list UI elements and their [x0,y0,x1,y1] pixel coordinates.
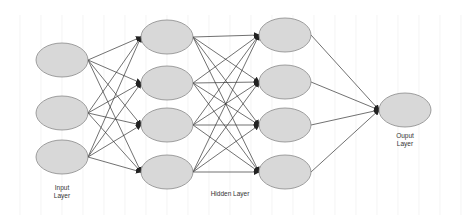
hidden1-node-2 [141,66,193,100]
edge-input-2-to-hidden1-0 [88,37,141,157]
input-node-1 [36,43,88,77]
connections [88,35,379,172]
input-node-2 [36,96,88,130]
edge-hidden1-0-to-hidden2-0 [193,35,259,37]
edge-input-2-to-hidden1-2 [88,125,141,157]
output-layer-label: OuputLayer [396,132,414,148]
hidden1-node-4 [141,155,193,189]
edge-input-2-to-hidden1-1 [88,83,141,157]
layer-labels: InputLayerOuputLayerHidden Layer [54,132,414,200]
hidden1-node-3 [141,108,193,142]
hidden1-node-1 [141,20,193,54]
hidden2-node-4 [259,155,311,189]
hidden-layer-label: Hidden Layer [211,190,250,198]
neural-network-diagram: InputLayerOuputLayerHidden Layer [0,0,465,224]
edge-input-2-to-hidden1-3 [88,157,141,172]
edge-input-1-to-hidden1-1 [88,83,141,113]
edge-hidden2-3-to-output-0 [311,110,379,172]
edge-hidden1-0-to-hidden2-1 [193,37,259,82]
edge-hidden1-1-to-hidden2-1 [193,82,259,83]
edge-hidden2-1-to-output-0 [311,82,379,110]
edge-input-0-to-hidden1-1 [88,60,141,83]
edge-input-1-to-hidden1-3 [88,113,141,172]
hidden2-node-3 [259,108,311,142]
hidden2-node-2 [259,65,311,99]
edge-hidden1-1-to-hidden2-0 [193,35,259,83]
edge-input-0-to-hidden1-3 [88,60,141,172]
output-node-1 [379,93,431,127]
input-layer-label: InputLayer [54,184,71,200]
hidden2-node-1 [259,18,311,52]
input-node-3 [36,140,88,174]
edge-hidden2-0-to-output-0 [311,35,379,110]
edge-hidden2-2-to-output-0 [311,110,379,125]
neurons [36,18,431,189]
